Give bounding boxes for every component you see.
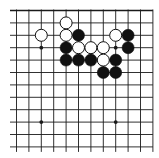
go-board-grid bbox=[0, 0, 159, 158]
black-stone bbox=[73, 54, 85, 66]
star-point-icon bbox=[114, 46, 118, 50]
black-stone bbox=[110, 54, 122, 66]
white-stone bbox=[85, 42, 97, 54]
white-stone bbox=[110, 29, 122, 41]
black-stone bbox=[60, 54, 72, 66]
black-stone bbox=[110, 67, 122, 79]
go-board bbox=[0, 0, 159, 158]
star-point-icon bbox=[39, 120, 43, 124]
star-point-icon bbox=[39, 46, 43, 50]
white-stone bbox=[35, 29, 47, 41]
white-stone bbox=[60, 17, 72, 29]
black-stone bbox=[85, 54, 97, 66]
white-stone bbox=[60, 29, 72, 41]
white-stone bbox=[73, 42, 85, 54]
black-stone bbox=[97, 67, 109, 79]
star-point-icon bbox=[114, 120, 118, 124]
black-stone bbox=[122, 29, 134, 41]
black-stone bbox=[73, 29, 85, 41]
white-stone bbox=[97, 54, 109, 66]
white-stone bbox=[97, 42, 109, 54]
black-stone bbox=[60, 42, 72, 54]
black-stone bbox=[122, 42, 134, 54]
